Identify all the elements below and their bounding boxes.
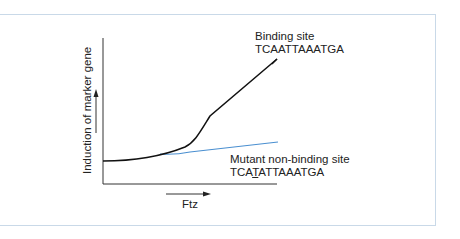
seq-suffix: ATTAAATGA — [258, 166, 324, 178]
x-direction-arrow-icon — [166, 192, 211, 197]
binding-site-sequence: TCAATTAAATGA — [255, 43, 344, 56]
x-axis-label: Ftz — [182, 198, 198, 211]
mutant-site-sequence: TCATATTAAATGA — [230, 166, 324, 179]
binding-label-pointer — [272, 59, 277, 64]
binding-site-curve — [103, 59, 277, 161]
binding-site-title: Binding site — [255, 30, 314, 43]
diagram-canvas — [0, 0, 460, 239]
mutant-site-title: Mutant non-binding site — [230, 153, 350, 166]
y-direction-arrow-icon — [94, 89, 99, 133]
seq-prefix: TCA — [230, 166, 252, 178]
y-axis-label: Induction of marker gene — [81, 47, 93, 174]
